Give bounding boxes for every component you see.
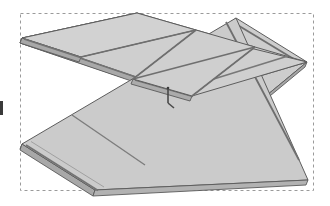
cad-viewport[interactable]: Isometric Cross Plates selection-boundin… (0, 0, 330, 206)
origin-point-dot (167, 87, 170, 90)
isometric-scene[interactable] (0, 0, 330, 206)
left-edge-tick (0, 101, 3, 115)
composite-plates[interactable] (0, 0, 330, 206)
